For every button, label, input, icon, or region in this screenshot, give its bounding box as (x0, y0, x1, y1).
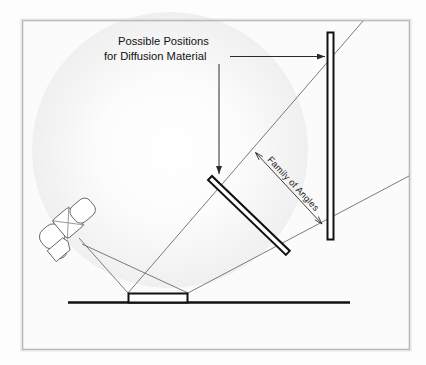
callout-line-1: Possible Positions (118, 35, 209, 47)
vertical-diffusion-panel (328, 33, 334, 240)
diagram-canvas: Possible Positions for Diffusion Materia… (0, 0, 426, 365)
optical-setup-diagram: Possible Positions for Diffusion Materia… (0, 0, 426, 365)
sample-platform (129, 294, 188, 303)
callout-line-2: for Diffusion Material (104, 50, 206, 62)
